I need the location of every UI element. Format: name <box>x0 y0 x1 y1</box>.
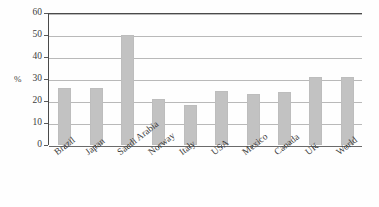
bar <box>309 77 322 145</box>
gridline-40 <box>49 58 362 59</box>
chart-figure: % 0102030405060 BrazilJapanSaudi ArabiaN… <box>0 0 379 207</box>
gridline-60 <box>49 14 362 15</box>
gridline-50 <box>49 36 362 37</box>
y-tick-label-50: 50 <box>16 30 42 40</box>
y-tick-label-30: 30 <box>16 74 42 84</box>
plot-area <box>48 13 362 145</box>
y-tick-mark-0 <box>44 145 48 146</box>
bar <box>121 35 134 145</box>
y-tick-label-60: 60 <box>16 8 42 18</box>
y-tick-label-0: 0 <box>16 140 42 150</box>
y-tick-label-20: 20 <box>16 96 42 106</box>
y-tick-label-40: 40 <box>16 52 42 62</box>
bar <box>215 91 228 145</box>
y-tick-label-10: 10 <box>16 118 42 128</box>
